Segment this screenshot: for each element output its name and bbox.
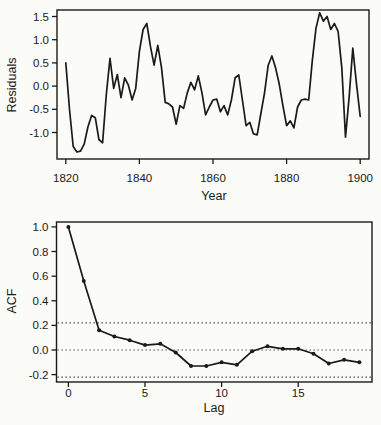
data-point-marker [266, 344, 270, 348]
y-axis-tick-label: 0.0 [33, 344, 49, 356]
data-point-marker [128, 338, 132, 342]
x-axis-tick-label: 15 [292, 387, 305, 399]
residuals-time-series-panel: 18201840186018801900-1.0-0.50.00.51.01.5… [0, 0, 381, 213]
y-axis-tick-label: 1.0 [33, 34, 49, 46]
data-point-marker [143, 343, 147, 347]
y-axis-tick-label: 0.8 [33, 246, 49, 258]
plot-frame [57, 222, 373, 382]
residuals-plot-area: 18201840186018801900-1.0-0.50.00.51.01.5 [29, 10, 373, 184]
y-axis-tick-label: 1.0 [33, 221, 49, 233]
two-panel-figure: 18201840186018801900-1.0-0.50.00.51.01.5… [0, 0, 381, 425]
x-axis-tick-label: 1860 [200, 172, 226, 184]
data-point-marker [220, 360, 224, 364]
x-axis-tick-label: 1840 [127, 172, 153, 184]
data-point-marker [296, 347, 300, 351]
x-axis-tick-label: 10 [215, 387, 228, 399]
x-axis-title-year: Year [201, 189, 226, 203]
y-axis-tick-label: 0.6 [33, 270, 49, 282]
data-point-marker [189, 364, 193, 368]
data-point-marker [112, 335, 116, 339]
x-axis-tick-label: 1820 [53, 172, 79, 184]
data-point-marker [158, 342, 162, 346]
y-axis-tick-label: -1.0 [29, 127, 49, 139]
y-axis-tick-label: 0.4 [33, 295, 50, 307]
data-point-marker [82, 279, 86, 283]
y-axis-title-residuals: Residuals [5, 58, 19, 113]
acf-plot-area: 051015-0.20.00.20.40.60.81.0 [29, 221, 372, 399]
data-point-marker [66, 225, 70, 229]
data-point-marker [97, 328, 101, 332]
x-axis-tick-label: 1880 [274, 172, 300, 184]
data-point-marker [250, 349, 254, 353]
y-axis-tick-label: -0.5 [29, 103, 49, 115]
data-point-marker [281, 347, 285, 351]
series-line [68, 227, 359, 366]
series-line [66, 13, 360, 152]
y-axis-tick-label: 0.0 [33, 80, 49, 92]
x-axis-title-lag: Lag [204, 401, 225, 415]
x-axis-tick-label: 0 [65, 387, 71, 399]
data-point-marker [327, 362, 331, 366]
x-axis-tick-label: 5 [142, 387, 148, 399]
data-point-marker [204, 364, 208, 368]
acf-chart: 051015-0.20.00.20.40.60.81.0 Lag ACF [0, 213, 381, 425]
data-point-marker [342, 358, 346, 362]
x-axis-tick-label: 1900 [347, 172, 373, 184]
y-axis-tick-label: 0.5 [33, 57, 49, 69]
y-axis-tick-label: 0.2 [33, 319, 49, 331]
data-point-marker [174, 351, 178, 355]
data-point-marker [312, 352, 316, 356]
data-point-marker [235, 363, 239, 367]
y-axis-title-acf: ACF [5, 288, 19, 313]
residuals-chart: 18201840186018801900-1.0-0.50.00.51.01.5… [0, 0, 381, 213]
y-axis-tick-label: -0.2 [29, 369, 49, 381]
acf-panel: 051015-0.20.00.20.40.60.81.0 Lag ACF [0, 213, 381, 425]
data-point-marker [357, 360, 361, 364]
y-axis-tick-label: 1.5 [33, 11, 49, 23]
